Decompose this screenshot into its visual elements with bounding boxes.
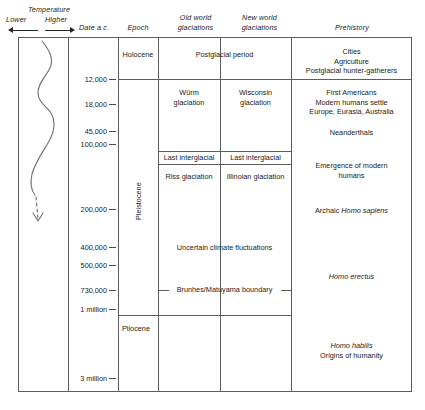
- prehistory-archaic-homo-sapiens: Archaic Homo sapiens: [292, 206, 411, 216]
- date-label-45000: 45,000: [73, 127, 107, 136]
- date-tick-1-million: [109, 309, 116, 310]
- prehistory-cities: Cities: [292, 47, 411, 57]
- prehistory-homo-erectus: Homo erectus: [292, 272, 411, 282]
- rule-last-interglacial-base: [158, 164, 291, 165]
- epoch-holocene: Holocene: [119, 50, 157, 60]
- prehistory-neanderthals: Neanderthals: [292, 128, 411, 138]
- oldworld-wurm-glaciation: Würmglaciation: [158, 88, 220, 107]
- date-tick-500000: [109, 265, 116, 266]
- prehistory-origins-of-humanity: Origins of humanity: [292, 351, 411, 361]
- temperature-header-label: Temperature: [19, 5, 79, 14]
- date-tick-45000: [109, 131, 116, 132]
- new-world-glaciations-column-header: New world glaciations: [227, 13, 292, 32]
- date-label-3-million: 3 million: [70, 374, 107, 383]
- epoch-pliocene: Pliocene: [119, 324, 160, 334]
- rule-holocene-pleistocene: [118, 79, 412, 80]
- old-world-glaciations-column-header: Old world glaciations: [163, 13, 228, 32]
- date-label-18000: 18,000: [73, 100, 107, 109]
- date-tick-400000: [109, 247, 116, 248]
- date-column-header: Date a.c.: [79, 23, 109, 32]
- brunhes-matuyama-boundary: Brunhes/Matuyama boundary: [158, 285, 291, 295]
- date-tick-12000: [109, 79, 116, 80]
- rule-pleistocene-pliocene: [118, 315, 291, 316]
- prehistory-europe-eurasia-australia: Europe, Eurasia, Australia: [292, 107, 411, 117]
- rule-temp-date: [68, 37, 69, 392]
- prehistory-first-americans-group: First Americans Modern humans settle Eur…: [292, 88, 411, 117]
- epoch-column-header: Epoch: [118, 23, 158, 32]
- newworld-illinoian-glaciation: Illinoian glaciation: [220, 172, 291, 182]
- oldworld-last-interglacial: Last interglacial: [158, 153, 220, 163]
- oldworld-riss-glaciation: Riss glaciation: [158, 172, 220, 182]
- prehistory-homo-habilis-group: Homo habilis Origins of humanity: [292, 341, 411, 360]
- prehistory-homo-habilis: Homo habilis: [292, 341, 411, 351]
- date-tick-200000: [109, 209, 116, 210]
- date-label-400000: 400,000: [70, 243, 107, 252]
- date-label-730000: 730,000: [70, 286, 107, 295]
- prehistory-timeline-figure: Temperature Lower Higher Date a.c. Epoch…: [0, 0, 425, 410]
- prehistory-emergence-line-1: Emergence of modern: [292, 161, 411, 171]
- date-label-12000: 12,000: [73, 75, 107, 84]
- rule-date-epoch: [118, 37, 119, 392]
- date-tick-100000: [109, 144, 116, 145]
- wurm-glaciation-text: Würmglaciation: [158, 88, 220, 107]
- prehistory-emergence-line-2: humans: [292, 171, 411, 181]
- prehistory-postglacial-hunter-gatherers: Postglacial hunter-gatherers: [292, 66, 411, 76]
- prehistory-agriculture: Agriculture: [292, 57, 411, 67]
- temperature-higher-label: Higher: [45, 15, 67, 24]
- date-label-200000: 200,000: [70, 205, 107, 214]
- prehistory-column-header: Prehistory: [292, 23, 412, 32]
- temperature-curve: [18, 37, 68, 237]
- temperature-higher-arrow: [45, 27, 75, 34]
- oldworld-postglacial-period: Postglacial period: [158, 50, 291, 60]
- date-label-1-million: 1 million: [70, 305, 107, 314]
- newworld-last-interglacial: Last interglacial: [220, 153, 291, 163]
- uncertain-climate-fluctuations: Uncertain climate fluctuations: [158, 243, 291, 253]
- temperature-lower-arrow: [8, 27, 38, 34]
- brunhes-rule-right: [281, 290, 291, 291]
- prehistory-holocene-group: Cities Agriculture Postglacial hunter-ga…: [292, 47, 411, 76]
- prehistory-modern-humans-settle: Modern humans settle: [292, 98, 411, 108]
- date-tick-3-million: [109, 378, 116, 379]
- date-label-500000: 500,000: [70, 261, 107, 270]
- date-tick-730000: [109, 290, 116, 291]
- temperature-lower-label: Lower: [6, 15, 26, 24]
- date-tick-18000: [109, 104, 116, 105]
- prehistory-emergence-modern-humans: Emergence of modern humans: [292, 161, 411, 180]
- date-label-100000: 100,000: [70, 140, 107, 149]
- newworld-wisconsin-glaciation: Wisconsinglaciation: [220, 88, 291, 107]
- homo-sapiens-italic: Homo sapiens: [341, 206, 388, 215]
- wisconsin-glaciation-text: Wisconsinglaciation: [220, 88, 291, 107]
- prehistory-first-americans: First Americans: [292, 88, 411, 98]
- epoch-pleistocene: Pleistocene: [134, 182, 143, 220]
- rule-wurm-base: [158, 151, 291, 152]
